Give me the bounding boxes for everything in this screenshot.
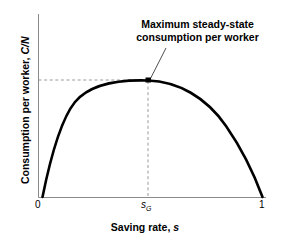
x-tick-label-golden-rule: sG (141, 200, 151, 212)
annotation-label: Maximum steady-state consumption per wor… (115, 18, 280, 44)
x-axis-label: Saving rate, s (0, 222, 290, 233)
annotation-line-1: Maximum steady-state (141, 18, 254, 30)
x-axis-label-symbol: s (173, 221, 179, 233)
x-tick-golden-subscript: G (146, 205, 151, 212)
y-axis-label-symbol: C/N (19, 36, 31, 54)
x-tick-label-one: 1 (259, 200, 265, 210)
y-axis-label-text: Consumption per worker, (19, 55, 31, 185)
annotation-line-2: consumption per worker (136, 31, 259, 43)
y-axis-label: Consumption per worker, C/N (20, 15, 31, 205)
consumption-curve (43, 80, 263, 197)
golden-rule-peak-marker (146, 78, 152, 83)
annotation-leader-line (150, 48, 166, 80)
x-tick-label-zero: 0 (35, 200, 41, 210)
chart-figure: Maximum steady-state consumption per wor… (0, 0, 290, 243)
x-axis-label-text: Saving rate, (111, 221, 173, 233)
